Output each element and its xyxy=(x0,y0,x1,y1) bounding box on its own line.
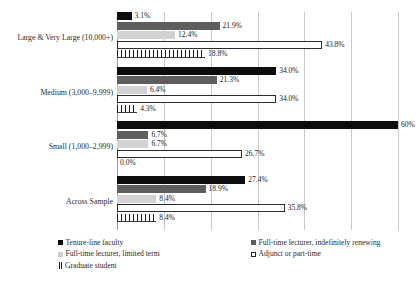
bar-row: 18.8% xyxy=(117,50,398,58)
bar xyxy=(117,76,217,84)
bar xyxy=(117,185,206,193)
bar-value-label: 34.0% xyxy=(276,67,298,75)
bar-group: 60%6.7%6.7%26.7%0.0% xyxy=(117,121,398,167)
bar-value-label: 34.0% xyxy=(276,96,298,104)
bar-group: 27.4%18.9%8.4%35.8%8.4% xyxy=(117,176,398,222)
bar-row: 8.4% xyxy=(117,195,398,203)
legend-column-left: Tenure-line facultyFull-time lecturer, l… xyxy=(58,237,228,272)
bar xyxy=(117,95,276,103)
bar-row: 34.0% xyxy=(117,95,398,103)
category-label: Medium (3,000–9,999) xyxy=(1,89,113,98)
category-label: Small (1,000–2,999) xyxy=(1,143,113,152)
legend-swatch-icon xyxy=(251,240,256,245)
bar-value-label: 26.7% xyxy=(242,150,264,158)
legend-label: Adjunct or part-time xyxy=(259,250,321,258)
bar-row: 60% xyxy=(117,121,398,129)
legend-item[interactable]: Full-time lecturer, indefinitely renewin… xyxy=(251,237,403,248)
bar xyxy=(117,22,220,30)
bar-row: 12.4% xyxy=(117,31,398,39)
bar-value-label: 27.4% xyxy=(245,176,267,184)
bar-row: 4.3% xyxy=(117,105,398,113)
bar xyxy=(117,176,245,184)
legend-item[interactable]: Tenure-line faculty xyxy=(58,237,228,248)
bar xyxy=(117,12,132,20)
category-label: Across Sample xyxy=(1,198,113,207)
bar-group: 34.0%21.3%6.4%34.0%4.3% xyxy=(117,67,398,113)
chart-legend: Tenure-line facultyFull-time lecturer, l… xyxy=(58,237,403,279)
bar xyxy=(117,86,147,94)
legend-label: Full-time lecturer, limited term xyxy=(66,250,160,258)
bar-value-label: 21.9% xyxy=(220,22,242,30)
bar-value-label: 8.4% xyxy=(156,195,175,203)
bar xyxy=(117,214,156,222)
bar-row: 6.4% xyxy=(117,86,398,94)
bar-value-label: 4.3% xyxy=(137,105,156,113)
bar-row: 8.4% xyxy=(117,214,398,222)
legend-swatch-icon xyxy=(58,240,63,245)
bar xyxy=(117,105,137,113)
bar-row: 43.8% xyxy=(117,41,398,49)
legend-label: Tenure-line faculty xyxy=(66,239,124,247)
bar-value-label: 43.8% xyxy=(322,41,344,49)
bar-value-label: 18.9% xyxy=(206,186,228,194)
legend-label: Full-time lecturer, indefinitely renewin… xyxy=(259,239,381,247)
bar-value-label: 35.8% xyxy=(285,205,307,213)
bar-row: 6.7% xyxy=(117,131,398,139)
bar-row: 27.4% xyxy=(117,176,398,184)
bar-chart: Large & Very Large (10,000+)Medium (3,00… xyxy=(0,0,418,283)
bar-value-label: 60% xyxy=(398,122,415,130)
bar-value-label: 6.7% xyxy=(148,131,167,139)
bar-value-label: 6.7% xyxy=(148,141,167,149)
bar xyxy=(117,121,398,129)
bar-row: 26.7% xyxy=(117,150,398,158)
legend-label: Graduate student xyxy=(65,262,117,270)
bar-value-label: 6.4% xyxy=(147,86,166,94)
bar-value-label: 18.8% xyxy=(205,51,227,59)
bar xyxy=(117,150,242,158)
legend-swatch-icon xyxy=(58,252,63,257)
bar-row: 18.9% xyxy=(117,185,398,193)
legend-item[interactable]: Graduate student xyxy=(58,260,228,271)
bar-row: 3.1% xyxy=(117,12,398,20)
bar xyxy=(117,131,148,139)
bar-row: 21.3% xyxy=(117,76,398,84)
bar xyxy=(117,50,205,58)
legend-item[interactable]: Adjunct or part-time xyxy=(251,249,403,260)
bar-value-label: 0.0% xyxy=(117,160,136,168)
bar-row: 21.9% xyxy=(117,22,398,30)
legend-column-right: Full-time lecturer, indefinitely renewin… xyxy=(251,237,403,260)
bar xyxy=(117,195,156,203)
bar-row: 6.7% xyxy=(117,140,398,148)
bar-row: 0.0% xyxy=(117,159,398,167)
bar-value-label: 12.4% xyxy=(175,32,197,40)
legend-swatch-icon xyxy=(59,262,62,269)
legend-swatch-icon xyxy=(251,252,256,257)
bar-group: 3.1%21.9%12.4%43.8%18.8% xyxy=(117,12,398,58)
bar-value-label: 3.1% xyxy=(132,13,151,21)
bar-value-label: 21.3% xyxy=(217,77,239,85)
bar-row: 35.8% xyxy=(117,204,398,212)
legend-item[interactable]: Full-time lecturer, limited term xyxy=(58,249,228,260)
bar xyxy=(117,41,322,49)
category-axis: Large & Very Large (10,000+)Medium (3,00… xyxy=(0,12,113,230)
bar xyxy=(117,204,285,212)
bar-row: 34.0% xyxy=(117,67,398,75)
bar xyxy=(117,140,148,148)
plot-area: 3.1%21.9%12.4%43.8%18.8%34.0%21.3%6.4%34… xyxy=(117,12,398,230)
bar-value-label: 8.4% xyxy=(156,214,175,222)
category-label: Large & Very Large (10,000+) xyxy=(1,34,113,43)
bar xyxy=(117,67,276,75)
bar xyxy=(117,31,175,39)
